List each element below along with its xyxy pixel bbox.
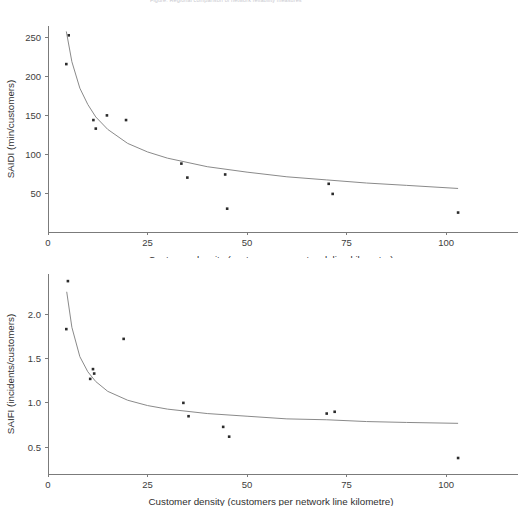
x-tick-label: 50 <box>242 479 253 490</box>
scatter-point <box>92 368 95 371</box>
x-tick-label: 100 <box>438 479 454 490</box>
x-tick-label: 25 <box>142 237 153 248</box>
x-tick-label: 100 <box>438 237 454 248</box>
chart-saifi: 02550751000.51.01.52.0Customer density (… <box>0 262 523 506</box>
scatter-point <box>106 114 109 117</box>
y-tick-label: 50 <box>30 188 41 199</box>
y-tick-label: 200 <box>25 71 41 82</box>
scatter-point <box>67 280 70 283</box>
y-tick-label: 2.0 <box>28 309 41 320</box>
saifi-plot-svg: 02550751000.51.01.52.0Customer density (… <box>0 262 523 506</box>
y-tick-label: 150 <box>25 110 41 121</box>
y-tick-label: 1.0 <box>28 397 41 408</box>
y-axis-title: SAIDI (min/customers) <box>5 80 16 179</box>
scatter-point <box>182 402 185 405</box>
header-caption: Figure: Regional comparison of network r… <box>150 0 302 3</box>
scatter-point <box>94 127 97 130</box>
y-axis-title: SAIFI (incidents/customers) <box>5 314 16 434</box>
figure-page: Figure: Regional comparison of network r… <box>0 0 523 506</box>
saidi-plot-svg: 025507510050100150200250Customer density… <box>0 8 523 258</box>
scatter-point <box>457 211 460 214</box>
scatter-point <box>186 176 189 179</box>
scatter-point <box>222 426 225 429</box>
chart-saidi: 025507510050100150200250Customer density… <box>0 8 523 258</box>
scatter-point <box>125 119 128 122</box>
scatter-point <box>67 34 70 37</box>
fit-curve-line <box>67 292 458 424</box>
x-tick-label: 0 <box>45 479 50 490</box>
y-tick-label: 0.5 <box>28 442 41 453</box>
scatter-point <box>93 372 96 375</box>
x-axis-title: Customer density (customers per network … <box>148 496 393 506</box>
y-tick-label: 100 <box>25 149 41 160</box>
y-tick-label: 250 <box>25 32 41 43</box>
scatter-point <box>228 435 231 438</box>
x-tick-label: 75 <box>341 479 352 490</box>
scatter-point <box>65 63 68 66</box>
axis-frame <box>48 26 518 232</box>
scatter-point <box>224 173 227 176</box>
y-tick-label: 1.5 <box>28 353 41 364</box>
scatter-point <box>327 183 330 186</box>
page-header-strip: Figure: Regional comparison of network r… <box>0 0 523 8</box>
x-tick-label: 25 <box>142 479 153 490</box>
x-tick-label: 75 <box>341 237 352 248</box>
scatter-point <box>65 328 68 331</box>
scatter-point <box>333 410 336 413</box>
scatter-point <box>325 412 328 415</box>
x-axis-title: Customer density (customers per network … <box>148 254 393 258</box>
scatter-point <box>226 207 229 210</box>
fit-curve-line <box>66 31 458 188</box>
x-tick-label: 50 <box>242 237 253 248</box>
scatter-point <box>180 162 183 165</box>
scatter-point <box>92 119 95 122</box>
x-tick-label: 0 <box>45 237 50 248</box>
axis-frame <box>48 274 518 474</box>
scatter-point <box>331 193 334 196</box>
scatter-point <box>457 457 460 460</box>
scatter-point <box>187 415 190 418</box>
scatter-point <box>122 338 125 341</box>
scatter-point <box>89 378 92 381</box>
